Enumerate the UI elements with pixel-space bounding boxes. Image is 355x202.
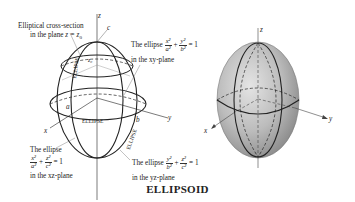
x-axis-label-left: x	[44, 127, 47, 135]
y-axis-label-left: y	[168, 114, 171, 122]
xz-ellipse-label-line1: The ellipse	[30, 146, 62, 154]
a-label: a	[66, 103, 70, 111]
yz-ellipse-label-line2: in the yz-plane	[132, 174, 175, 182]
cross-section-label-line2: in the plane z = z0	[30, 31, 82, 42]
shaded-ellipsoid	[211, 28, 328, 168]
xy-ellipse-label-line2: in the xy-plane	[131, 56, 174, 64]
ellipse-curve-label-front: ELLIPSE	[82, 117, 103, 125]
z-axis-label-left: z	[98, 12, 101, 20]
c-label: c	[107, 24, 110, 32]
xz-ellipse-label-line3: in the xz-plane	[30, 172, 73, 180]
yz-ellipse-label: The ellipse y²b² + z²c² = 1	[132, 156, 198, 170]
cross-section-label-line1: Elliptical cross-section	[18, 22, 84, 30]
xz-ellipse-equation: x²a² + z²c² = 1	[30, 155, 63, 169]
y-axis-label-right: y	[329, 115, 332, 123]
figure-title: ELLIPSOID	[0, 183, 355, 195]
xy-ellipse-label: The ellipse x²a² + y²b² = 1	[131, 38, 198, 52]
x-axis-label-right: x	[204, 127, 207, 135]
ellipse-xy	[50, 88, 146, 120]
z-axis-label-right: z	[260, 26, 263, 34]
b-label: b	[136, 116, 140, 124]
z0-label: z₀	[88, 56, 92, 64]
